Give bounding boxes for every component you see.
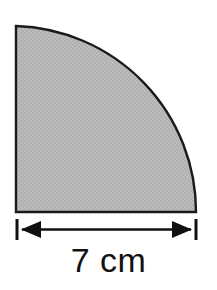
dimension-label: 7 cm [0,240,217,280]
arrowhead-left-icon [21,221,41,238]
quarter-circle-outline [16,26,196,212]
dimension-annotation [17,219,196,240]
quarter-circle-shape [16,26,196,212]
arrowhead-right-icon [172,221,192,238]
geometry-figure: 7 cm [0,0,217,290]
